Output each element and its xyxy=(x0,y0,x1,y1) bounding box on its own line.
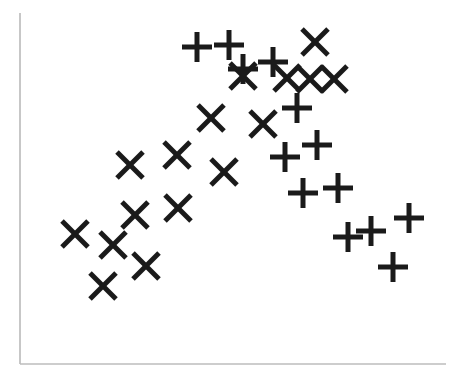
x-marker-point xyxy=(100,232,126,258)
plus-marker-point xyxy=(302,130,332,160)
x-marker-point xyxy=(297,66,323,92)
plus-marker-point xyxy=(378,252,408,282)
plus-marker-point xyxy=(288,178,318,208)
plus-marker-point xyxy=(333,222,363,252)
x-marker-point xyxy=(164,142,190,168)
plus-marker-point xyxy=(182,32,212,62)
scatter-plot-canvas xyxy=(0,0,458,381)
x-marker-point xyxy=(198,105,224,131)
x-marker-point xyxy=(117,152,143,178)
plus-marker-point xyxy=(270,142,300,172)
scatter-plot-figure xyxy=(0,0,458,381)
x-marker-point xyxy=(165,195,191,221)
plus-marker-point xyxy=(323,173,353,203)
plus-marker-point xyxy=(356,216,386,246)
x-marker-point xyxy=(122,202,148,228)
plus-marker-point xyxy=(394,203,424,233)
x-marker-point xyxy=(250,111,276,137)
plus-marker-point xyxy=(282,93,312,123)
x-marker-point xyxy=(62,221,88,247)
x-marker-point xyxy=(302,29,328,55)
x-marker-point xyxy=(133,253,159,279)
plus-marker-point xyxy=(214,30,244,60)
x-marker-point xyxy=(274,65,300,91)
x-marker-point xyxy=(321,66,347,92)
x-marker-point xyxy=(211,159,237,185)
x-marker-point xyxy=(90,273,116,299)
plus-marker-point xyxy=(228,54,258,84)
data-markers-layer xyxy=(62,29,424,299)
